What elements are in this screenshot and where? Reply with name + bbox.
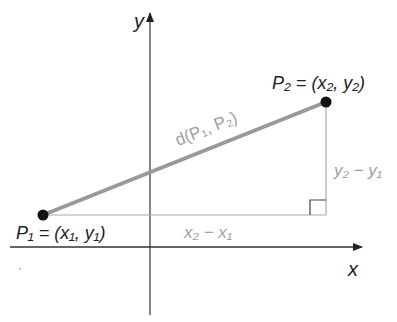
stray-dot	[19, 268, 21, 270]
point-p1	[38, 210, 49, 221]
right-angle-marker	[310, 200, 326, 215]
y-axis-label: y	[132, 10, 145, 32]
horizontal-leg-label: x₂ − x₁	[183, 223, 232, 242]
p2-label: P₂ = (x₂, y₂)	[272, 73, 365, 93]
x-axis-label: x	[347, 258, 359, 280]
hypotenuse-label: d(P₁, P₂)	[172, 108, 240, 150]
hypotenuse	[43, 102, 326, 215]
distance-diagram: y x P₂ = (x₂, y₂) P₁ = (x₁, y₁) d(P₁, P₂…	[0, 0, 397, 322]
p1-label: P₁ = (x₁, y₁)	[16, 223, 106, 243]
vertical-leg-label: y₂ − y₁	[333, 161, 382, 180]
point-p2	[321, 97, 332, 108]
